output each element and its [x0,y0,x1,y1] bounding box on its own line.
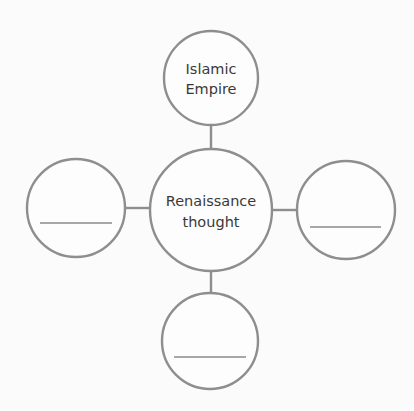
node-left [27,159,125,257]
node-center-label-line1: Renaissance [166,193,257,209]
node-center-label-line2: thought [182,214,239,230]
node-top-label-line1: Islamic [186,61,237,77]
concept-web-diagram: Islamic Empire Renaissance thought [0,0,414,411]
node-right-circle [297,161,395,259]
node-center-circle [150,149,272,271]
node-top: Islamic Empire [164,31,258,125]
node-left-circle [27,159,125,257]
node-top-label-line2: Empire [185,81,236,97]
node-center: Renaissance thought [150,149,272,271]
node-bottom-circle [162,293,258,389]
node-bottom [162,293,258,389]
node-top-circle [164,31,258,125]
node-right [297,161,395,259]
